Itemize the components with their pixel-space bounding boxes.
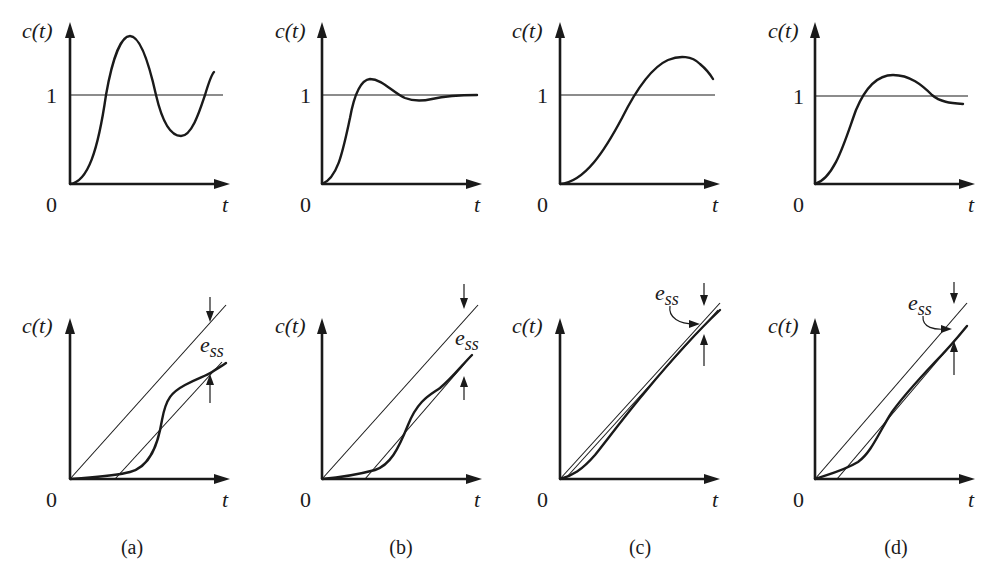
panel-b-ramp-plot: ess c(t) 0 t [275,284,482,512]
unit-level-label: 1 [300,83,311,108]
panel-d: c(t) 1 0 t ess c(t) 0 t (d) [768,18,975,559]
x-axis-label: t [474,487,481,512]
down-arrow-icon [950,293,958,304]
origin-label: 0 [793,192,804,217]
step-response-curve [560,57,713,184]
origin-label: 0 [793,487,804,512]
steady-state-error-label: ess [655,280,679,309]
y-axis-label: c(t) [512,18,543,43]
x-axis-arrowhead-icon [466,474,482,484]
panel-d-step-plot: c(t) 1 0 t [768,18,975,217]
y-axis-arrowhead-icon [65,318,75,334]
down-arrow-icon [460,298,468,309]
x-axis-label: t [712,192,719,217]
steady-state-error-label: ess [455,325,479,354]
x-axis-label: t [968,192,975,217]
unit-level-label: 1 [793,84,804,109]
step-response-curve [815,75,963,184]
up-arrow-icon [460,376,468,387]
panel-b-step-plot: c(t) 1 0 t [275,18,482,217]
x-axis-label: t [474,192,481,217]
ramp-response-curve [322,355,472,479]
y-axis-label: c(t) [22,313,53,338]
x-axis-arrowhead-icon [214,179,230,189]
ramp-response-curve [815,326,967,479]
y-axis-arrowhead-icon [810,318,820,334]
panel-c-step-plot: c(t) 1 0 t [512,18,720,217]
origin-label: 0 [46,192,57,217]
origin-label: 0 [537,192,548,217]
origin-label: 0 [300,192,311,217]
down-arrow-icon [700,295,708,306]
y-axis-arrowhead-icon [810,22,820,38]
unit-level-label: 1 [46,83,57,108]
x-axis-arrowhead-icon [704,179,720,189]
x-axis-label: t [712,487,719,512]
x-axis-arrowhead-icon [214,474,230,484]
ramp-input-line [560,303,720,479]
y-axis-label: c(t) [512,313,543,338]
panel-c: c(t) 1 0 t ess c(t) 0 t (c) [512,18,720,559]
y-axis-arrowhead-icon [555,318,565,334]
panel-d-ramp-plot: ess c(t) 0 t [768,282,975,512]
origin-label: 0 [300,487,311,512]
step-response-curve [70,36,214,184]
x-axis-label: t [222,192,229,217]
y-axis-arrowhead-icon [555,22,565,38]
origin-label: 0 [46,487,57,512]
y-axis-label: c(t) [275,18,306,43]
x-axis-arrowhead-icon [704,474,720,484]
y-axis-label: c(t) [22,18,53,43]
ramp-response-curve [560,310,720,479]
y-axis-label: c(t) [768,18,799,43]
panel-caption: (c) [629,536,651,559]
panel-c-ramp-plot: ess c(t) 0 t [512,280,720,512]
step-and-ramp-response-figure: c(t) 1 0 t ess c(t) 0 t (a) [0,0,990,565]
ramp-response-curve [70,363,226,479]
panel-caption: (b) [389,536,412,559]
y-axis-label: c(t) [275,313,306,338]
steady-state-error-label: ess [908,290,932,319]
panel-a-ramp-plot: ess c(t) 0 t [22,297,230,512]
steady-state-error-label: ess [200,332,224,361]
panel-caption: (a) [121,536,143,559]
panel-a-step-plot: c(t) 1 0 t [22,18,230,217]
x-axis-arrowhead-icon [466,179,482,189]
x-axis-label: t [968,487,975,512]
up-arrow-icon [950,341,958,352]
up-arrow-icon [700,334,708,345]
y-axis-arrowhead-icon [65,22,75,38]
y-axis-arrowhead-icon [317,22,327,38]
x-axis-arrowhead-icon [959,474,975,484]
panel-b: c(t) 1 0 t ess c(t) 0 t (b) [275,18,482,559]
x-axis-label: t [222,487,229,512]
panel-a: c(t) 1 0 t ess c(t) 0 t (a) [22,18,230,559]
asymptote-line [115,362,222,479]
x-axis-arrowhead-icon [959,179,975,189]
y-axis-label: c(t) [768,313,799,338]
y-axis-arrowhead-icon [317,318,327,334]
unit-level-label: 1 [537,83,548,108]
origin-label: 0 [537,487,548,512]
panel-caption: (d) [884,536,907,559]
